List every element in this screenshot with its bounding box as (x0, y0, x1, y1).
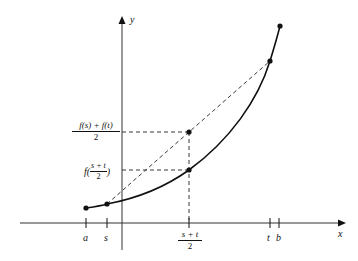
point-a (83, 205, 88, 210)
point-t (267, 58, 272, 63)
y-axis-label: y (130, 15, 134, 25)
chord-mid-label: f(s) + f(t) 2 (72, 121, 120, 142)
y-axis-arrow-icon (119, 16, 126, 24)
x-axis-label: x (338, 229, 342, 239)
tick-label-b: b (276, 233, 281, 243)
x-axis-arrow-icon (338, 220, 346, 227)
curve-mid-label: f( s + t 2 ) (84, 161, 110, 181)
points (83, 23, 282, 210)
convex-curve (86, 26, 280, 208)
x-axis (20, 220, 346, 227)
tick-label-t: t (267, 233, 270, 243)
point-s (104, 201, 109, 206)
tick-label-a: a (83, 233, 88, 243)
point-b (277, 23, 282, 28)
tick-label-s: s (104, 233, 108, 243)
point-chord-mid (186, 129, 191, 134)
point-curve-mid (186, 167, 191, 172)
diagram-canvas (0, 0, 358, 261)
convexity-diagram: y x a s s + t 2 t b f(s) + f(t) 2 f( s +… (0, 0, 358, 261)
tick-label-midpoint: s + t 2 (178, 230, 202, 251)
